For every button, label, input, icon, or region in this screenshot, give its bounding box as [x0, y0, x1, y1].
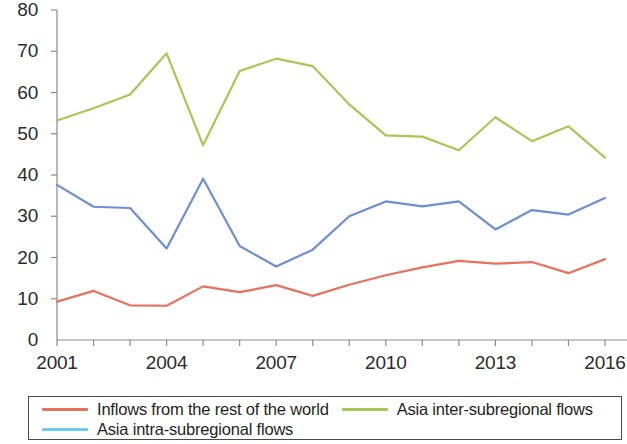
y-axis-tick-label: 30	[2, 206, 38, 225]
legend-entry[interactable]: Asia inter-subregional flows	[329, 399, 593, 420]
series-group	[57, 53, 605, 305]
legend-label: Inflows from the rest of the world	[97, 400, 329, 419]
x-axis-tick-label: 2016	[570, 352, 627, 374]
legend-label: Asia inter-subregional flows	[397, 400, 593, 419]
y-axis-tick-label: 70	[2, 41, 38, 60]
x-axis-tick-label: 2013	[460, 352, 530, 374]
y-axis-tick-labels: 01020304050607080	[0, 0, 38, 392]
x-axis-tick-label: 2001	[22, 352, 92, 374]
series-line	[57, 259, 605, 306]
x-axis-tick-labels: 200120042007201020132016	[0, 352, 627, 384]
y-axis-tick-label: 10	[2, 289, 38, 308]
y-axis-tick-label: 50	[2, 124, 38, 143]
plot-area: 01020304050607080	[0, 0, 627, 392]
x-axis-tick-label: 2004	[132, 352, 202, 374]
legend-color-swatch	[42, 428, 88, 431]
y-axis-tick-label: 80	[2, 0, 38, 19]
legend-row-1: Inflows from the rest of the worldAsia i…	[29, 399, 621, 420]
x-axis-tick-label: 2007	[241, 352, 311, 374]
chart-legend: Inflows from the rest of the worldAsia i…	[28, 396, 622, 440]
legend-color-swatch	[342, 408, 388, 411]
legend-entry[interactable]: Inflows from the rest of the world	[29, 399, 329, 420]
y-axis-tick-label: 60	[2, 83, 38, 102]
y-axis-tick-label: 40	[2, 165, 38, 184]
chart-canvas	[0, 0, 627, 392]
y-axis-tick-label: 0	[2, 330, 38, 349]
legend-entry[interactable]: Asia intra-subregional flows	[29, 419, 293, 440]
x-axis-tick-label: 2010	[351, 352, 421, 374]
series-line	[57, 179, 605, 267]
series-line	[57, 53, 605, 157]
axis-group	[51, 10, 627, 346]
y-axis-tick-label: 20	[2, 248, 38, 267]
legend-row-2: Asia intra-subregional flows	[29, 419, 621, 440]
legend-color-swatch	[42, 408, 88, 411]
legend-label: Asia intra-subregional flows	[97, 420, 293, 439]
line-chart-figure: 01020304050607080 2001200420072010201320…	[0, 0, 627, 444]
